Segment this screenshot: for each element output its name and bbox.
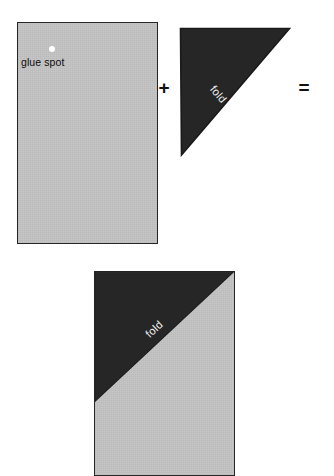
fold-triangle-shape (179, 27, 291, 157)
glue-spot-label: glue spot (21, 57, 65, 68)
step-one-figure: glue spot (17, 22, 158, 244)
equals-operator: = (296, 78, 312, 97)
glue-spot-dot (49, 46, 55, 52)
plus-operator: + (156, 78, 172, 97)
step-two-figure: fold (179, 27, 291, 157)
result-fold-triangle-shape (94, 271, 235, 476)
result-figure: fold (94, 271, 235, 476)
